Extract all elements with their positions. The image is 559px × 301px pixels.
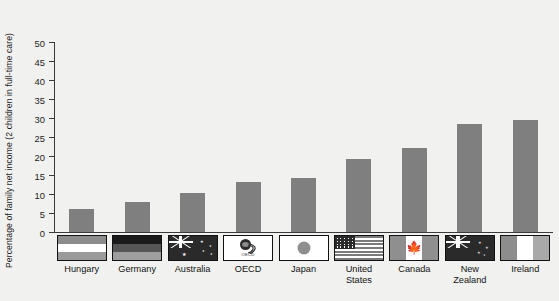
y-tick: 0	[49, 232, 54, 233]
flag-graphic	[280, 236, 328, 260]
oecd-swoosh-icon	[248, 240, 256, 249]
us-star-dot	[340, 246, 341, 247]
y-tick-label: 30	[35, 113, 45, 124]
us-star-dot	[348, 244, 349, 245]
flag-stripe	[390, 236, 406, 260]
y-tick-label: 35	[35, 94, 45, 105]
flag-stripe	[58, 236, 106, 244]
y-tick-label: 25	[35, 132, 45, 143]
flag-star: ★	[478, 241, 482, 245]
flag-star: ★	[182, 252, 186, 257]
us-star-dot	[340, 238, 341, 239]
x-axis-label: Hungary	[54, 264, 109, 275]
x-axis-label-line: Germany	[109, 264, 164, 275]
bar	[513, 120, 538, 232]
us-star-dot	[337, 238, 338, 239]
us-star-dot	[352, 241, 353, 242]
x-axis-label-line: Ireland	[498, 264, 553, 275]
y-tick: 30	[49, 118, 54, 119]
flag-canada-icon: 🍁	[389, 235, 439, 261]
x-axis-label-line: Canada	[387, 264, 442, 275]
us-star-dot	[352, 246, 353, 247]
bar	[180, 193, 205, 232]
bar-chart-figure: Percentage of family net income (2 child…	[0, 0, 559, 301]
y-tick: 15	[49, 175, 54, 176]
flag-graphic: 🍁	[390, 236, 438, 260]
y-tick: 20	[49, 156, 54, 157]
flag-star: ★	[209, 245, 212, 248]
flag-stripe	[113, 244, 161, 252]
y-tick: 25	[49, 137, 54, 138]
flag-star: ★	[202, 250, 205, 253]
flag-strip: ★★★★★OECD🍁★★★★	[54, 235, 553, 261]
flag-star: ★	[210, 253, 213, 256]
union-jack-canton	[446, 236, 470, 248]
us-star-dot	[348, 238, 349, 239]
us-star-dot	[340, 241, 341, 242]
y-tick: 50	[49, 42, 54, 43]
x-axis-label: Germany	[109, 264, 164, 275]
flag-star: ★	[200, 240, 204, 244]
us-star-dot	[348, 241, 349, 242]
x-axis-label-line: OECD	[220, 264, 275, 275]
flag-japan-icon	[279, 235, 329, 261]
flag-hungary-icon	[57, 235, 107, 261]
us-star-dot	[337, 246, 338, 247]
union-jack-canton	[169, 236, 193, 248]
x-axis-line	[54, 232, 553, 233]
flag-ireland-icon	[500, 235, 550, 261]
bar	[236, 182, 261, 232]
x-axis-label: Australia	[165, 264, 220, 275]
y-tick: 35	[49, 99, 54, 100]
maple-leaf-icon: 🍁	[406, 241, 422, 255]
flag-graphic	[335, 236, 383, 260]
flag-stripe	[58, 252, 106, 260]
x-axis-label: Japan	[276, 264, 331, 275]
x-axis-label: Canada	[387, 264, 442, 275]
japan-sun-disc	[297, 242, 310, 255]
y-tick-label: 5	[40, 208, 45, 219]
flag-stripe	[113, 252, 161, 260]
x-axis-label: Ireland	[498, 264, 553, 275]
flag-united-states-icon	[334, 235, 384, 261]
y-axis-title: Percentage of family net income (2 child…	[0, 0, 18, 301]
us-star-dot	[337, 244, 338, 245]
us-star-dot	[352, 244, 353, 245]
y-tick-label: 20	[35, 151, 45, 162]
bar	[402, 148, 427, 232]
flag-stripe	[335, 258, 383, 260]
y-tick-label: 10	[35, 189, 45, 200]
us-star-dot	[348, 246, 349, 247]
x-axis-label-line: Japan	[276, 264, 331, 275]
bar	[346, 159, 371, 232]
plot-area: 05101520253035404550	[54, 42, 553, 232]
y-tick: 40	[49, 80, 54, 81]
bar	[125, 202, 150, 232]
flag-stripe	[517, 236, 533, 260]
flag-stripe	[533, 236, 549, 260]
y-tick-label: 40	[35, 75, 45, 86]
flag-stripe	[501, 236, 517, 260]
x-axis-label-line: Hungary	[54, 264, 109, 275]
oecd-logo-icon: OECD	[223, 235, 273, 261]
x-axis-label-line: Zealand	[442, 275, 497, 286]
us-star-dot	[344, 246, 345, 247]
y-tick-label: 45	[35, 56, 45, 67]
us-star-dot	[337, 241, 338, 242]
y-tick-label: 15	[35, 170, 45, 181]
x-axis-label: NewZealand	[442, 264, 497, 286]
flag-graphic: ★★★★	[446, 236, 494, 260]
us-star-dot	[340, 244, 341, 245]
us-star-dot	[344, 244, 345, 245]
y-tick: 45	[49, 61, 54, 62]
flag-graphic	[501, 236, 549, 260]
x-axis-label-line: United	[331, 264, 386, 275]
y-axis-line	[54, 42, 55, 232]
flag-stripe	[58, 244, 106, 252]
flag-new-zealand-icon: ★★★★	[445, 235, 495, 261]
us-star-dot	[344, 241, 345, 242]
x-axis-label: UnitedStates	[331, 264, 386, 286]
y-tick-label: 50	[35, 37, 45, 48]
x-axis-labels: HungaryGermanyAustraliaOECDJapanUnitedSt…	[54, 264, 553, 298]
bar	[457, 124, 482, 232]
